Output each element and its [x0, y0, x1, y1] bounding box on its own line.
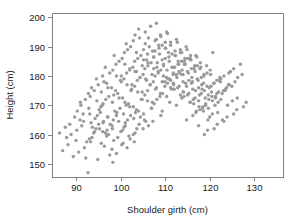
data-point: [93, 117, 96, 120]
y-axis-tick-label: 160: [29, 130, 45, 141]
data-point: [182, 90, 185, 93]
data-point: [147, 124, 150, 127]
data-point: [140, 90, 143, 93]
data-point: [90, 86, 93, 89]
data-point: [206, 118, 209, 121]
data-point: [146, 52, 149, 55]
data-point: [175, 104, 178, 107]
data-point: [95, 77, 98, 80]
data-point: [141, 73, 144, 76]
data-point: [58, 131, 61, 134]
data-point: [204, 96, 207, 99]
data-point: [165, 68, 168, 71]
data-point: [126, 48, 129, 51]
data-point: [89, 95, 92, 98]
data-point: [118, 106, 121, 109]
data-point: [113, 109, 116, 112]
data-point: [224, 87, 227, 90]
data-point: [149, 61, 152, 64]
data-point: [195, 109, 198, 112]
data-point: [101, 102, 104, 105]
data-point: [115, 114, 118, 117]
data-point: [87, 106, 90, 109]
data-point: [117, 120, 120, 123]
data-point: [202, 109, 205, 112]
data-point: [190, 76, 193, 79]
data-point: [116, 136, 119, 139]
data-point: [222, 74, 225, 77]
data-point: [199, 61, 202, 64]
data-point: [89, 140, 92, 143]
data-point: [141, 127, 144, 130]
data-point: [129, 114, 132, 117]
data-point: [143, 93, 146, 96]
data-point: [197, 105, 200, 108]
data-point: [120, 74, 123, 77]
data-point: [169, 41, 172, 44]
data-point: [138, 76, 141, 79]
data-point: [106, 115, 109, 118]
data-point: [142, 48, 145, 51]
data-point: [203, 89, 206, 92]
data-point: [202, 82, 205, 85]
data-point: [207, 106, 210, 109]
scatter-plot-figure: 90100110120130150160170180190200Shoulder…: [0, 0, 297, 222]
data-point: [160, 109, 163, 112]
data-point: [184, 45, 187, 48]
data-point: [239, 63, 242, 66]
data-point: [166, 32, 169, 35]
y-axis-tick-label: 170: [29, 100, 45, 111]
data-point: [186, 70, 189, 73]
data-point: [151, 101, 154, 104]
data-point: [200, 92, 203, 95]
data-point: [81, 112, 84, 115]
data-point: [226, 104, 229, 107]
data-point: [97, 108, 100, 111]
data-point: [148, 83, 151, 86]
data-point: [102, 120, 105, 123]
data-point: [112, 118, 115, 121]
data-point: [79, 104, 82, 107]
data-point: [97, 123, 100, 126]
data-point: [111, 127, 114, 130]
data-point: [158, 95, 161, 98]
data-point: [181, 73, 184, 76]
data-point: [189, 54, 192, 57]
y-axis-tick-label: 150: [29, 159, 45, 170]
data-point: [97, 83, 100, 86]
data-point: [156, 70, 159, 73]
x-axis-tick-label: 90: [71, 182, 82, 193]
data-point: [217, 90, 220, 93]
data-point: [124, 121, 127, 124]
data-point: [127, 134, 130, 137]
data-point: [169, 44, 172, 47]
data-point: [174, 54, 177, 57]
data-point: [138, 36, 141, 39]
data-point: [194, 89, 197, 92]
data-point: [108, 71, 111, 74]
data-point: [216, 101, 219, 104]
data-point: [153, 74, 156, 77]
data-point: [170, 52, 173, 55]
data-point: [157, 44, 160, 47]
data-point: [146, 64, 149, 67]
data-point: [133, 131, 136, 134]
data-point: [151, 49, 154, 52]
data-point: [235, 108, 238, 111]
data-point: [209, 73, 212, 76]
data-point: [92, 131, 95, 134]
data-point: [219, 98, 222, 101]
data-point: [225, 115, 228, 118]
data-point: [232, 67, 235, 70]
x-axis-tick-label: 100: [114, 182, 130, 193]
data-point: [180, 51, 183, 54]
data-point: [61, 149, 64, 152]
data-point: [80, 124, 83, 127]
data-point: [208, 68, 211, 71]
data-point: [213, 104, 216, 107]
data-point: [127, 102, 130, 105]
data-point: [205, 71, 208, 74]
data-point: [143, 67, 146, 70]
data-point: [128, 137, 131, 140]
data-point: [100, 142, 103, 145]
